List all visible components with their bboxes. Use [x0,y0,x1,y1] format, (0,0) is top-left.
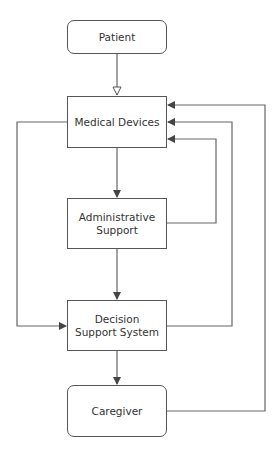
node-patient-label: Patient [99,31,136,44]
node-administrative-support: Administrative Support [67,198,167,249]
edge-medical-devices-to-decision-left [17,122,67,326]
node-medical-devices: Medical Devices [67,96,167,148]
node-decision-support-system-label: Decision Support System [74,313,160,339]
node-medical-devices-label: Medical Devices [75,116,160,129]
node-caregiver-label: Caregiver [92,405,143,418]
node-decision-support-system: Decision Support System [67,300,167,351]
node-patient: Patient [67,20,167,54]
node-administrative-support-label: Administrative Support [79,211,155,237]
edge-admin-to-medical-devices [167,139,216,223]
edge-decision-to-medical-devices [167,122,232,326]
node-caregiver: Caregiver [67,385,167,437]
